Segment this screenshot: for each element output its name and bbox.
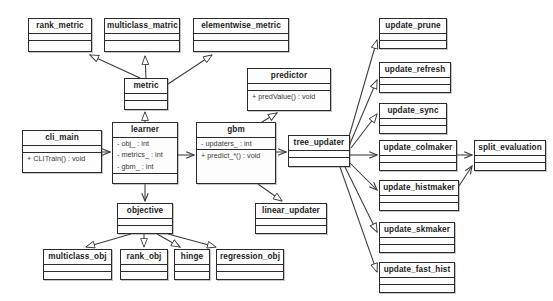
- uml-operation-compartment: [380, 41, 446, 47]
- uml-operation-compartment: [105, 41, 179, 47]
- edge-metric-to-rank_metric: [90, 55, 140, 78]
- uml-operation-compartment: [380, 163, 456, 169]
- uml-operation: + predValue() : void: [248, 91, 330, 103]
- uml-operation-compartment: [44, 272, 111, 278]
- edge-tree_updater-to-update_fast_hist: [340, 167, 377, 272]
- uml-class-name: predictor: [248, 69, 330, 83]
- uml-class-name: update_colmaker: [380, 141, 456, 155]
- uml-class-name: split_evaluation: [475, 141, 545, 155]
- uml-class-name: hinge: [175, 250, 209, 264]
- uml-class-name: objective: [118, 204, 172, 218]
- uml-operation-compartment: [380, 285, 454, 291]
- uml-class-update_skmaker[interactable]: update_skmaker: [379, 222, 455, 253]
- uml-attribute-compartment: - obj_ : int- metrics_ : int- gbm_ : int: [113, 138, 177, 173]
- uml-class-linear_updater[interactable]: linear_updater: [255, 203, 327, 234]
- uml-class-name: regression_obj: [217, 250, 283, 264]
- uml-attribute-compartment: - updaters_ : int: [197, 138, 275, 150]
- uml-class-rank_metric[interactable]: rank_metric: [28, 18, 92, 52]
- uml-class-name: update_prune: [380, 19, 446, 33]
- uml-class-update_sync[interactable]: update_sync: [379, 103, 447, 134]
- uml-class-objective[interactable]: objective: [117, 203, 173, 234]
- uml-operation-compartment: [256, 226, 326, 232]
- uml-class-name: update_histmaker: [380, 181, 458, 195]
- uml-class-rank_obj[interactable]: rank_obj: [120, 249, 168, 280]
- uml-class-name: linear_updater: [256, 204, 326, 218]
- uml-class-name: learner: [113, 123, 177, 137]
- edge-objective-to-multiclass_obj: [86, 234, 131, 247]
- edge-metric-to-multiclass_matric: [145, 56, 146, 78]
- uml-attribute: - gbm_ : int: [113, 161, 177, 173]
- uml-operation-compartment: [380, 203, 458, 209]
- uml-class-predictor[interactable]: predictor+ predValue() : void: [247, 68, 331, 111]
- edge-tree_updater-to-update_skmaker: [345, 167, 377, 232]
- uml-class-name: elementwise_metric: [194, 19, 288, 33]
- uml-operation-compartment: [113, 174, 177, 180]
- uml-class-learner[interactable]: learner- obj_ : int- metrics_ : int- gbm…: [112, 122, 178, 184]
- uml-class-name: update_refresh: [380, 63, 450, 77]
- uml-class-name: update_fast_hist: [380, 263, 454, 277]
- uml-class-name: metric: [125, 79, 167, 93]
- uml-class-update_colmaker[interactable]: update_colmaker: [379, 140, 457, 171]
- edge-objective-to-regression_obj: [168, 234, 216, 247]
- uml-class-multiclass_matric[interactable]: multiclass_matric: [104, 18, 180, 52]
- uml-attribute: - updaters_ : int: [197, 138, 275, 150]
- uml-class-name: update_sync: [380, 104, 446, 118]
- uml-class-regression_obj[interactable]: regression_obj: [216, 249, 284, 280]
- uml-class-update_fast_hist[interactable]: update_fast_hist: [379, 262, 455, 293]
- uml-class-hinge[interactable]: hinge: [174, 249, 210, 280]
- edge-tree_updater-to-update_sync: [351, 114, 377, 148]
- uml-class-name: rank_metric: [29, 19, 91, 33]
- uml-class-diagram: rank_metricmulticlass_matricelementwise_…: [0, 0, 553, 301]
- edge-gbm-to-linear_updater: [258, 184, 282, 201]
- edge-metric-to-elementwise_metric: [168, 55, 212, 84]
- uml-operation-compartment: [475, 163, 545, 169]
- uml-class-name: multiclass_obj: [44, 250, 111, 264]
- uml-class-elementwise_metric[interactable]: elementwise_metric: [193, 18, 289, 52]
- uml-operation-compartment: [380, 85, 450, 91]
- uml-class-cli_main[interactable]: cli_main+ CLITrain() : void: [22, 130, 102, 173]
- uml-class-update_histmaker[interactable]: update_histmaker: [379, 180, 459, 211]
- uml-operation: + predict_*() : void: [197, 150, 275, 162]
- uml-operation-compartment: [217, 272, 283, 278]
- uml-class-update_prune[interactable]: update_prune: [379, 18, 447, 49]
- uml-operation-compartment: + predValue() : void: [248, 91, 330, 103]
- edge-objective-to-hinge: [157, 234, 180, 247]
- uml-class-name: cli_main: [23, 131, 101, 145]
- uml-operation-compartment: [125, 101, 167, 107]
- edge-tree_updater-to-update_prune: [348, 40, 377, 140]
- uml-class-name: multiclass_matric: [105, 19, 179, 33]
- uml-operation-compartment: [175, 272, 209, 278]
- edge-tree_updater-to-update_refresh: [349, 80, 377, 146]
- uml-operation-compartment: [380, 245, 454, 251]
- uml-operation-compartment: [121, 272, 167, 278]
- uml-class-name: tree_updater: [289, 136, 349, 150]
- uml-attribute: - metrics_ : int: [113, 149, 177, 161]
- uml-operation-compartment: [380, 126, 446, 132]
- uml-operation: + CLITrain() : void: [23, 153, 101, 165]
- uml-class-name: update_skmaker: [380, 223, 454, 237]
- uml-operation-compartment: + CLITrain() : void: [23, 153, 101, 165]
- uml-operation-compartment: [118, 226, 172, 232]
- uml-operation-compartment: [289, 158, 349, 164]
- uml-class-name: gbm: [197, 123, 275, 137]
- uml-operation-compartment: [194, 41, 288, 47]
- uml-class-metric[interactable]: metric: [124, 78, 168, 110]
- edge-tree_updater-to-update_histmaker: [350, 163, 377, 190]
- uml-class-name: rank_obj: [121, 250, 167, 264]
- uml-attribute: - obj_ : int: [113, 138, 177, 150]
- uml-class-gbm[interactable]: gbm- updaters_ : int+ predict_*() : void: [196, 122, 276, 184]
- uml-class-multiclass_obj[interactable]: multiclass_obj: [43, 249, 112, 280]
- uml-class-split_evaluation[interactable]: split_evaluation: [474, 140, 546, 171]
- uml-operation-compartment: + predict_*() : void: [197, 150, 275, 162]
- edge-gbm-to-predictor: [262, 113, 277, 122]
- uml-class-update_refresh[interactable]: update_refresh: [379, 62, 451, 93]
- uml-operation-compartment: [29, 41, 91, 47]
- uml-class-tree_updater[interactable]: tree_updater: [288, 135, 350, 167]
- edge-update_histmaker-to-split_evaluation: [459, 166, 472, 186]
